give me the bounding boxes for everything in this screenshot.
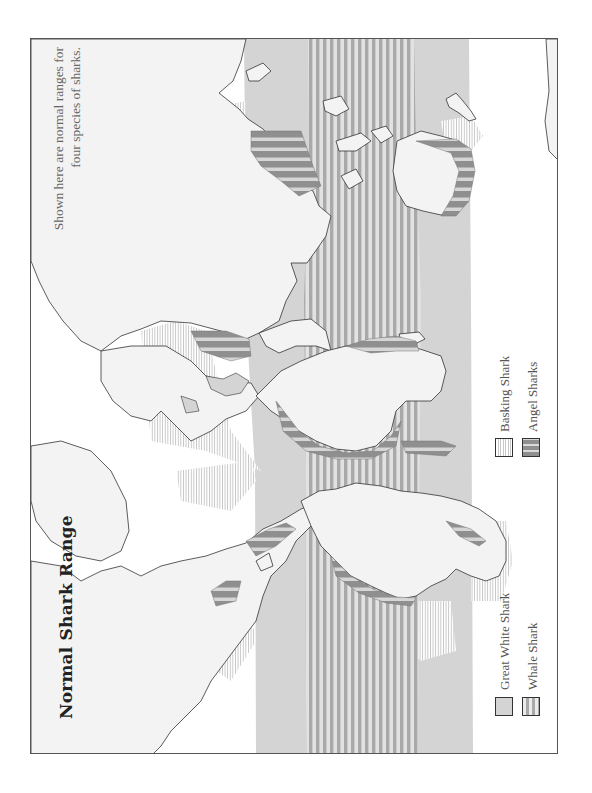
legend-swatch-angel-sharks — [522, 438, 540, 457]
map-frame — [30, 38, 558, 754]
legend-label-whale-shark: Whale Shark — [525, 622, 541, 690]
subtitle-line-1: Shown here are normal ranges for — [50, 47, 67, 242]
legend-swatch-whale-shark — [522, 697, 540, 716]
legend-label-basking-shark: Basking Shark — [497, 356, 513, 432]
map-title: Normal Shark Range — [56, 515, 76, 719]
world-map — [31, 39, 558, 754]
legend-label-great-white: Great White Shark — [497, 593, 513, 690]
subtitle-line-2: four species of sharks. — [67, 47, 84, 242]
greenland — [31, 441, 129, 561]
map-subtitle: Shown here are normal ranges for four sp… — [50, 47, 84, 242]
legend-swatch-great-white — [495, 697, 513, 716]
legend-swatch-basking-shark — [495, 438, 513, 457]
antarctica-edge — [545, 39, 558, 161]
legend-label-angel-sharks: Angel Sharks — [525, 362, 541, 432]
